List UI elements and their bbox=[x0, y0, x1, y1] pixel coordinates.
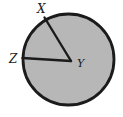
geometry-diagram: X Z Y bbox=[0, 0, 123, 117]
point-label-x: X bbox=[36, 2, 46, 16]
diagram-canvas: X Z Y bbox=[0, 0, 123, 117]
point-label-z: Z bbox=[8, 52, 18, 66]
